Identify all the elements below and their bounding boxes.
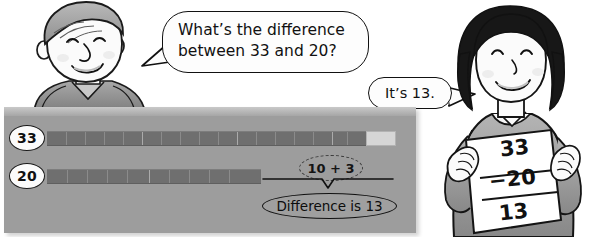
bar-33-part-2	[142, 131, 366, 146]
paper-answer: 13	[498, 199, 530, 226]
bar-33-difference-segment	[366, 131, 396, 146]
question-line-1: What’s the difference	[178, 20, 355, 41]
question-line-2: between 33 and 20?	[178, 41, 355, 62]
bar-label-33-text: 33	[17, 130, 37, 146]
paper-subtrahend: −20	[488, 165, 537, 194]
difference-statement-text: Difference is 13	[276, 198, 382, 214]
paper-minuend: 33	[499, 135, 531, 162]
bar-label-33: 33	[9, 125, 45, 151]
bar-label-20: 20	[9, 163, 45, 189]
difference-statement-badge: Difference is 13	[262, 193, 397, 219]
bar-20-part-2	[149, 169, 261, 184]
difference-expression-text: 10 + 3	[307, 161, 354, 176]
bar-33-part-1	[47, 131, 142, 146]
illustration-stage: What’s the difference between 33 and 20?…	[0, 0, 599, 237]
panel-top-sheen	[4, 107, 416, 116]
speech-bubble-question: What’s the difference between 33 and 20?	[162, 11, 369, 73]
bar-label-20-text: 20	[17, 168, 37, 184]
bar-20-part-1	[47, 169, 149, 184]
difference-brace	[262, 178, 394, 190]
